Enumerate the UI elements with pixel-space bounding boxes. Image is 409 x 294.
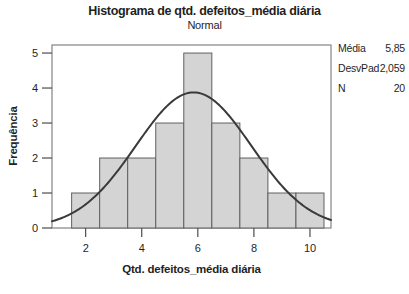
y-tick-label: 5 — [32, 47, 38, 59]
y-tick-label: 4 — [32, 82, 38, 94]
histogram-bar — [212, 123, 240, 228]
histogram-bar — [128, 158, 156, 228]
x-tick-label: 8 — [251, 242, 257, 254]
histogram-bar — [156, 123, 184, 228]
y-tick-label: 2 — [32, 152, 38, 164]
histogram-bar — [240, 158, 268, 228]
stats-stdev-label: DesvPad — [338, 62, 379, 74]
stats-n-label: N — [338, 82, 345, 94]
histogram-bar — [184, 53, 212, 228]
histogram-bar — [100, 158, 128, 228]
stats-n-value: 20 — [394, 82, 405, 94]
x-axis-title: Qtd. defeitos_média diária — [52, 263, 331, 275]
stats-mean-value: 5,85 — [385, 42, 405, 54]
x-tick-label: 2 — [83, 242, 89, 254]
stats-mean-label: Média — [338, 42, 366, 54]
x-tick-label: 10 — [304, 242, 316, 254]
x-tick-label: 6 — [195, 242, 201, 254]
histogram-figure: Histograma de qtd. defeitos_média diária… — [0, 0, 409, 294]
y-tick-label: 3 — [32, 117, 38, 129]
y-tick-label: 0 — [32, 222, 38, 234]
stats-row-mean: Média 5,85 — [338, 38, 405, 58]
histogram-bar — [268, 193, 296, 228]
stats-legend: Média 5,85 DesvPad 2,059 N 20 — [338, 38, 405, 98]
x-tick-label: 4 — [139, 242, 145, 254]
stats-row-stdev: DesvPad 2,059 — [338, 58, 405, 78]
stats-stdev-value: 2,059 — [380, 62, 405, 74]
stats-row-n: N 20 — [338, 78, 405, 98]
y-tick-label: 1 — [32, 187, 38, 199]
